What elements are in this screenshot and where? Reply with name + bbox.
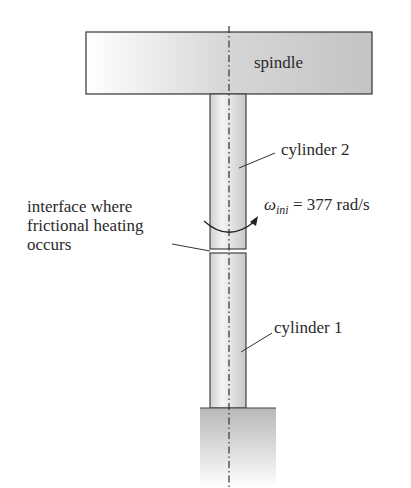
interface-label-line-2: frictional heating — [27, 216, 144, 235]
omega-value: = 377 rad/s — [289, 195, 370, 214]
omega-subscript: ini — [276, 203, 289, 217]
interface-label-line-3: occurs — [27, 235, 144, 254]
cylinder-1-label: cylinder 1 — [274, 318, 342, 337]
interface-label-line-1: interface where — [27, 197, 144, 216]
spindle-label: spindle — [254, 53, 303, 72]
interface-label: interface where frictional heating occur… — [27, 197, 144, 254]
omega-symbol: ω — [264, 195, 276, 214]
base-fixture — [200, 408, 276, 488]
leader-interface — [172, 244, 210, 251]
cylinder-2 — [210, 94, 246, 249]
cylinder-2-label: cylinder 2 — [281, 140, 349, 159]
cylinder-1 — [210, 253, 246, 408]
angular-velocity-label: ωini = 377 rad/s — [264, 195, 370, 220]
